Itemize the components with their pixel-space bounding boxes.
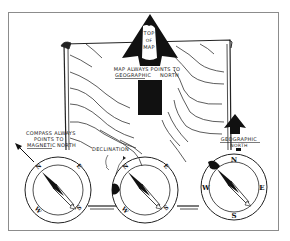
arrow-label-line2: OF [146,38,153,43]
compass-right-s: S [231,211,236,220]
map-caption-north: NORTH [160,72,179,78]
geographic-north-label-line2: NORTH [230,143,247,148]
compass-caption-magnetic: MAGNETIC [27,142,56,148]
declination-label: DECLINATION [92,146,129,152]
compass-right-w: W [201,183,210,192]
declination-diagram: TOP OF MAP MAP ALWAYS POINTS TO GEOGRAPH… [0,0,290,241]
arrow-label-line1: TOP [143,30,155,36]
map-caption-geographic: GEOGRAPHIC [115,72,151,78]
compass-right-n: N [231,155,238,164]
geographic-north-tick [236,148,241,151]
geographic-north-label-line1: GEOGRAPHIC [221,136,257,142]
arrow-label-line3: MAP [143,44,155,50]
compass-right-e: E [259,183,264,192]
compass-caption-north: NORTH [57,142,76,148]
